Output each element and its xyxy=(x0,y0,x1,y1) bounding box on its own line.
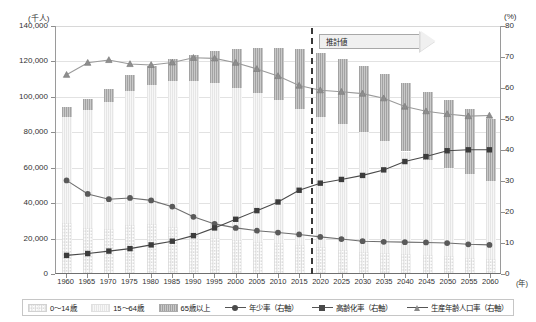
data-point-marker xyxy=(275,230,281,236)
data-point-marker xyxy=(64,177,70,183)
legend-label: 年少率（右軸） xyxy=(249,302,298,313)
y-tick-mark-right xyxy=(501,274,505,275)
population-chart: (千人) (%) (年) 140,000120,000100,00080,000… xyxy=(0,0,536,322)
legend-item-young_bar[interactable]: 0〜14歳 xyxy=(28,302,77,313)
data-point-marker xyxy=(487,147,492,152)
y-tick-label-right: 70 xyxy=(505,52,531,61)
legend-marker-circle-icon xyxy=(232,305,238,311)
data-point-marker xyxy=(106,248,111,253)
y-tick-label-right: 40 xyxy=(505,145,531,154)
legend-swatch-icon xyxy=(91,304,110,312)
data-point-marker xyxy=(106,57,112,63)
x-tick-mark xyxy=(469,274,470,278)
data-point-marker xyxy=(254,228,260,234)
x-tick-mark xyxy=(363,274,364,278)
x-tick-mark xyxy=(257,274,258,278)
data-point-marker xyxy=(296,82,302,88)
x-tick-mark xyxy=(427,274,428,278)
x-tick-mark xyxy=(278,274,279,278)
legend-item-working_rate[interactable]: 生産年齢人口率（右軸） xyxy=(407,302,508,313)
right-axis-unit: (%) xyxy=(504,12,516,21)
arrow-right-icon xyxy=(419,31,435,53)
data-point-marker xyxy=(64,253,69,258)
x-tick-mark xyxy=(87,274,88,278)
data-point-marker xyxy=(339,177,344,182)
data-point-marker xyxy=(233,225,239,231)
data-point-marker xyxy=(127,195,133,201)
data-point-marker xyxy=(127,246,132,251)
data-point-marker xyxy=(402,159,407,164)
y-tick-mark-right xyxy=(501,26,505,27)
data-point-marker xyxy=(63,71,69,77)
data-point-marker xyxy=(106,196,112,202)
y-tick-label-right: 10 xyxy=(505,238,531,247)
x-axis-unit: (年) xyxy=(516,277,528,288)
data-point-marker xyxy=(339,236,345,242)
data-point-marker xyxy=(169,204,175,210)
data-point-marker xyxy=(191,214,197,220)
legend-marker-tri-icon xyxy=(414,305,420,311)
y-tick-mark-right xyxy=(501,57,505,58)
x-tick-mark xyxy=(214,274,215,278)
data-point-marker xyxy=(423,154,428,159)
legend-item-work_bar[interactable]: 15〜64歳 xyxy=(91,302,144,313)
data-point-marker xyxy=(191,233,196,238)
legend-item-youth_rate[interactable]: 年少率（右軸） xyxy=(225,302,298,313)
legend-item-aging_rate[interactable]: 高齢化率（右軸） xyxy=(312,302,392,313)
x-tick-mark xyxy=(151,274,152,278)
y-tick-mark-right xyxy=(501,181,505,182)
y-tick-label-left: 60,000 xyxy=(0,163,48,172)
data-point-marker xyxy=(360,173,365,178)
y-tick-label-left: 120,000 xyxy=(0,56,48,65)
y-tick-label-left: 140,000 xyxy=(0,21,48,30)
data-point-marker xyxy=(254,208,259,213)
y-tick-label-right: 30 xyxy=(505,176,531,185)
data-point-marker xyxy=(275,199,280,204)
x-tick-mark xyxy=(172,274,173,278)
x-tick-mark xyxy=(448,274,449,278)
y-tick-mark-left xyxy=(51,274,55,275)
data-point-marker xyxy=(212,225,217,230)
data-point-marker xyxy=(85,191,91,197)
x-tick-mark xyxy=(342,274,343,278)
y-tick-label-left: 40,000 xyxy=(0,198,48,207)
data-point-marker xyxy=(444,148,449,153)
data-point-marker xyxy=(465,241,471,247)
data-point-marker xyxy=(402,239,408,245)
data-point-marker xyxy=(466,147,471,152)
line-series-layer xyxy=(56,26,500,273)
legend-label: 15〜64歳 xyxy=(113,302,144,313)
data-point-marker xyxy=(296,188,301,193)
x-tick-mark xyxy=(490,274,491,278)
x-tick-mark xyxy=(405,274,406,278)
data-point-marker xyxy=(85,251,90,256)
legend-swatch-icon xyxy=(159,304,178,312)
x-tick-mark xyxy=(320,274,321,278)
y-tick-mark-right xyxy=(501,88,505,89)
estimate-annotation-body: 推計値 xyxy=(319,34,419,49)
data-point-marker xyxy=(381,167,386,172)
x-tick-label: 2060 xyxy=(473,277,507,286)
y-tick-mark-right xyxy=(501,119,505,120)
x-tick-mark xyxy=(384,274,385,278)
x-tick-mark xyxy=(108,274,109,278)
x-tick-mark xyxy=(66,274,67,278)
data-point-marker xyxy=(296,232,302,238)
legend-label: 高齢化率（右軸） xyxy=(336,302,392,313)
legend-swatch-icon xyxy=(28,304,47,312)
y-tick-mark-right xyxy=(501,212,505,213)
estimate-label: 推計値 xyxy=(326,36,347,47)
y-tick-label-right: 50 xyxy=(505,114,531,123)
data-point-marker xyxy=(444,240,450,246)
data-point-marker xyxy=(381,239,387,245)
x-tick-mark xyxy=(129,274,130,278)
x-tick-mark xyxy=(193,274,194,278)
data-point-marker xyxy=(170,239,175,244)
estimate-annotation: 推計値 xyxy=(319,30,435,53)
legend-line-icon xyxy=(407,304,428,312)
legend-item-old_bar[interactable]: 65歳以上 xyxy=(159,302,210,313)
y-tick-label-right: 0 xyxy=(505,269,531,278)
data-point-marker xyxy=(148,242,153,247)
data-point-marker xyxy=(423,240,429,246)
data-point-marker xyxy=(148,198,154,204)
